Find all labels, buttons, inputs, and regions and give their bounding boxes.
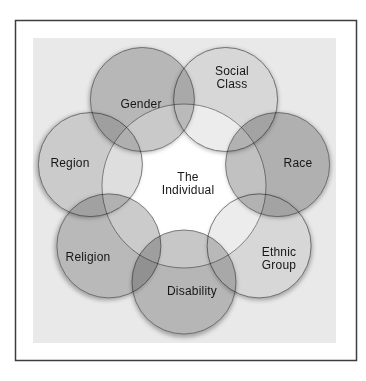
label-religion: Religion: [66, 250, 111, 264]
center-label-line-1: The: [177, 170, 198, 184]
label-gender: Gender: [120, 97, 161, 111]
label-ethnic-group-line-2: Group: [262, 258, 296, 272]
label-social-class-line-1: Social: [215, 64, 249, 78]
label-social-class-line-2: Class: [216, 77, 247, 91]
figure-page: GenderSocialClassRaceEthnicGroupDisabili…: [0, 0, 366, 381]
label-disability: Disability: [167, 284, 217, 298]
label-race: Race: [284, 156, 313, 170]
diagram-canvas: GenderSocialClassRaceEthnicGroupDisabili…: [0, 0, 366, 381]
label-region: Region: [50, 156, 89, 170]
center-label-line-2: Individual: [162, 183, 215, 197]
label-ethnic-group-line-1: Ethnic: [262, 245, 297, 259]
